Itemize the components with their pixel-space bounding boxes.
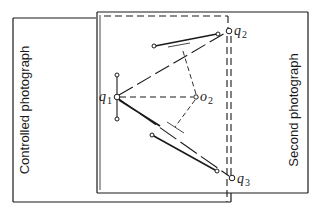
o2-marker xyxy=(194,95,198,99)
q3-outer-marker xyxy=(150,133,154,137)
svg-text:3: 3 xyxy=(245,177,250,188)
photogrammetry-diagram: Controlled photograph Second photograph … xyxy=(0,0,322,215)
q2-inner-marker xyxy=(216,32,220,36)
second-photograph-label: Second photograph xyxy=(286,53,301,166)
q2-outer-marker xyxy=(152,44,156,48)
label-q1: q 1 xyxy=(99,89,112,106)
label-q2: q 2 xyxy=(234,23,247,40)
q3-inner-marker xyxy=(215,169,219,173)
q1-marker xyxy=(114,94,120,100)
svg-text:2: 2 xyxy=(242,29,247,40)
q3-marker xyxy=(229,175,235,181)
q1-bottom-marker xyxy=(115,117,119,121)
controlled-photograph-label: Controlled photograph xyxy=(17,46,32,175)
q2-marker xyxy=(226,28,232,34)
point-markers xyxy=(114,28,235,181)
svg-text:2: 2 xyxy=(208,95,213,106)
svg-text:q: q xyxy=(237,171,244,186)
controlled-photograph-frame xyxy=(13,18,231,202)
svg-text:q: q xyxy=(234,23,241,38)
q1-top-marker xyxy=(115,73,119,77)
svg-text:o: o xyxy=(200,89,207,104)
svg-text:1: 1 xyxy=(107,95,112,106)
rays-from-o2 xyxy=(175,48,196,127)
svg-text:q: q xyxy=(99,89,106,104)
label-o2: o 2 xyxy=(200,89,213,106)
label-q3: q 3 xyxy=(237,171,250,188)
tick-marks xyxy=(167,43,190,133)
